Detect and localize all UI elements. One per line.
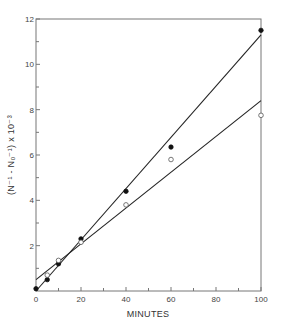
y-axis-title: (N⁻¹ - N₀⁻¹) x 10⁻³ [6, 115, 16, 195]
chart: 020406080100 24681012 MINUTES (N⁻¹ - N₀⁻… [0, 0, 281, 336]
open-data-point [79, 240, 84, 245]
fit-lines [36, 35, 261, 291]
filled-data-point [34, 287, 38, 291]
data-points [34, 28, 264, 291]
y-tick-label: 12 [25, 15, 34, 24]
x-tick-label: 60 [167, 295, 176, 304]
filled-data-point [45, 277, 49, 281]
plot-frame [36, 19, 261, 291]
x-tick-label: 0 [34, 295, 39, 304]
x-axis-ticks: 020406080100 [34, 287, 268, 304]
filled-data-point [259, 28, 263, 32]
open-data-point [45, 273, 50, 278]
y-axis-ticks: 24681012 [25, 15, 40, 268]
y-tick-label: 6 [30, 151, 35, 160]
filled-data-point [124, 189, 128, 193]
x-tick-label: 40 [122, 295, 131, 304]
open-data-point [259, 113, 264, 118]
y-tick-label: 8 [30, 106, 35, 115]
fit-line [36, 101, 261, 280]
x-axis-title: MINUTES [127, 309, 170, 319]
open-data-point [169, 157, 174, 162]
open-data-point [124, 203, 129, 208]
y-tick-label: 4 [30, 196, 35, 205]
x-tick-label: 20 [77, 295, 86, 304]
y-tick-label: 10 [25, 60, 34, 69]
x-tick-label: 80 [212, 295, 221, 304]
filled-data-point [169, 145, 173, 149]
y-tick-label: 2 [30, 242, 35, 251]
x-tick-label: 100 [254, 295, 268, 304]
open-data-point [56, 258, 61, 263]
